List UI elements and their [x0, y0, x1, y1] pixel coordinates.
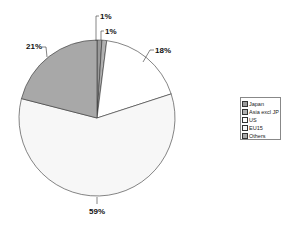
- leader-line: [101, 31, 104, 40]
- legend-item-japan: Japan: [242, 100, 279, 108]
- pie-slices: [19, 40, 175, 196]
- data-label: 59%: [89, 207, 105, 216]
- data-label: 1%: [100, 12, 112, 21]
- data-label: 21%: [26, 42, 42, 51]
- legend-label: US: [249, 117, 257, 123]
- data-label: 18%: [155, 46, 171, 55]
- leader-line: [96, 16, 99, 41]
- legend-swatch-eu15: [242, 125, 248, 131]
- leader-line: [42, 47, 47, 57]
- data-label: 1%: [105, 27, 117, 36]
- legend-item-us: US: [242, 116, 279, 124]
- legend-label: EU15: [249, 125, 263, 131]
- legend-swatch-us: [242, 117, 248, 123]
- legend-item-asia-excl-jp: Asia excl JP: [242, 108, 279, 116]
- legend-label: Asia excl JP: [249, 109, 279, 115]
- legend-item-eu15: EU15: [242, 124, 279, 132]
- legend-label: Japan: [249, 101, 264, 107]
- legend-item-others: Others: [242, 132, 279, 140]
- legend-label: Others: [249, 133, 266, 139]
- legend-swatch-japan: [242, 101, 248, 107]
- legend-swatch-asia: [242, 109, 248, 115]
- legend: Japan Asia excl JP US EU15 Others: [240, 97, 281, 140]
- legend-swatch-others: [242, 133, 248, 139]
